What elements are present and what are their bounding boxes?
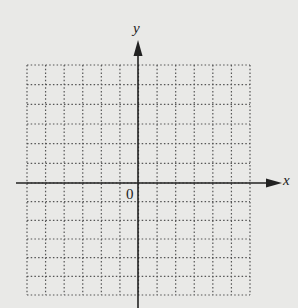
coordinate-plane: [0, 0, 298, 308]
x-axis-label: x: [283, 172, 290, 189]
y-axis-label: y: [133, 20, 140, 37]
y-axis-arrow-icon: [134, 40, 143, 56]
x-axis-arrow-icon: [266, 179, 282, 188]
origin-label: 0: [126, 186, 134, 203]
